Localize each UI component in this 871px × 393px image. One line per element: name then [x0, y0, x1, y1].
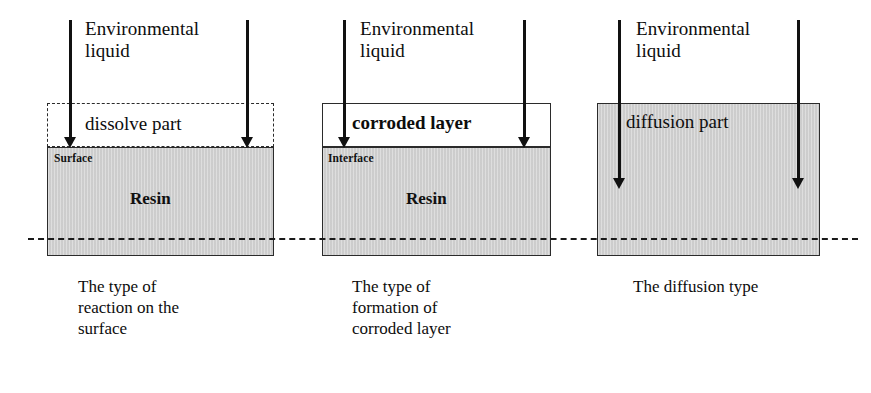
diffusion-part-label: diffusion part: [626, 112, 729, 132]
inflow-label: Environmental liquid: [636, 18, 806, 62]
panel-caption: The diffusion type: [633, 276, 853, 297]
figure-canvas: Environmental liquid dissolve part Surfa…: [0, 0, 871, 393]
panel-diffusion: Environmental liquid diffusion part The …: [0, 0, 871, 393]
inflow-arrow-right: [791, 20, 806, 190]
reference-baseline: [28, 238, 858, 240]
inflow-arrow-left: [612, 20, 627, 190]
